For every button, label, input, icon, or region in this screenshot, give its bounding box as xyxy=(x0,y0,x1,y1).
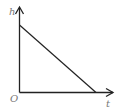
h-axis-label: h xyxy=(9,7,15,17)
series-line xyxy=(20,25,97,93)
h-vs-t-plot xyxy=(0,0,123,112)
origin-label: O xyxy=(10,94,18,104)
t-axis-label: t xyxy=(106,99,110,109)
